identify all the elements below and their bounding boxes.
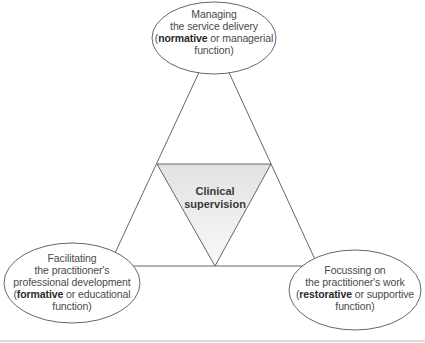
bottom-left-line-5: function) xyxy=(4,300,140,312)
bottom-right-line-2: the practitioner's work xyxy=(290,276,420,288)
bottom-right-line-4: function) xyxy=(290,300,420,312)
normative-keyword: normative xyxy=(158,32,207,44)
center-line-2: supervision xyxy=(165,198,265,211)
top-node-line-2: the service delivery xyxy=(152,20,276,32)
bottom-left-node-label: Facilitating the practitioner's professi… xyxy=(4,252,140,312)
center-line-1: Clinical xyxy=(165,185,265,198)
top-node-line-1: Managing xyxy=(152,8,276,20)
bottom-left-line-2: the practitioner's xyxy=(4,264,140,276)
bottom-right-line-3: (restorative or supportive xyxy=(290,288,420,300)
bottom-right-line-1: Focussing on xyxy=(290,264,420,276)
bottom-left-line-3: professional development xyxy=(4,276,140,288)
bottom-left-line-4: (formative or educational xyxy=(4,288,140,300)
bottom-right-node-label: Focussing on the practitioner's work (re… xyxy=(290,264,420,312)
formative-keyword: formative xyxy=(17,288,63,300)
restorative-keyword: restorative xyxy=(299,288,352,300)
top-node-line-4: function) xyxy=(152,44,276,56)
top-node-line-3: (normative or managerial xyxy=(152,32,276,44)
inner-triangle xyxy=(157,164,271,266)
top-node-label: Managing the service delivery (normative… xyxy=(152,8,276,56)
bottom-left-line-1: Facilitating xyxy=(4,252,140,264)
center-label: Clinical supervision xyxy=(165,185,265,211)
